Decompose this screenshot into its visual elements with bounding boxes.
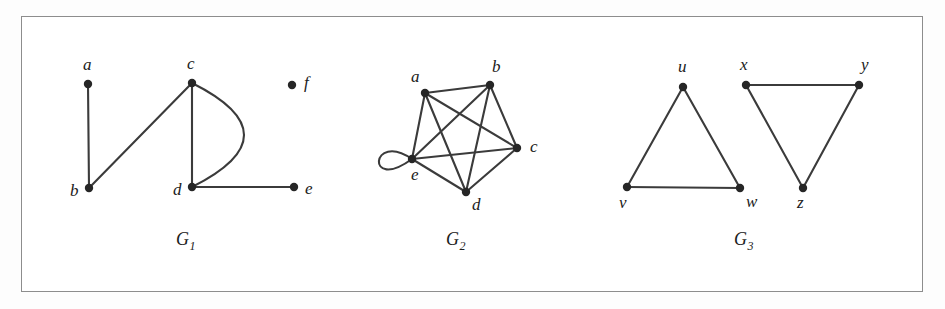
figure-root: abcdefG1abcdeG2uvwxyzG3 [0, 0, 945, 309]
figure-frame [21, 16, 923, 292]
